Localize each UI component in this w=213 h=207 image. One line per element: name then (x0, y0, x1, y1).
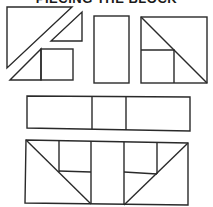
row-outline (25, 140, 188, 205)
split-square-pieces (7, 7, 82, 80)
middle-strip (27, 96, 190, 131)
center-rectangle (94, 16, 129, 83)
left-unit-inner-horizontal (59, 171, 91, 172)
corner-inner-square (141, 50, 174, 83)
assembled-row (25, 140, 188, 205)
small-triangle-piece (51, 12, 82, 41)
large-triangle-piece (7, 7, 72, 68)
lower-triangle-piece (10, 49, 41, 80)
assembled-corner-square (141, 17, 207, 83)
block-piecing-diagram (0, 0, 213, 207)
right-unit-inner-horizontal (124, 172, 157, 174)
strip-outline (27, 96, 190, 131)
tall-rectangle-piece (94, 16, 129, 83)
lower-square-piece (41, 49, 73, 80)
